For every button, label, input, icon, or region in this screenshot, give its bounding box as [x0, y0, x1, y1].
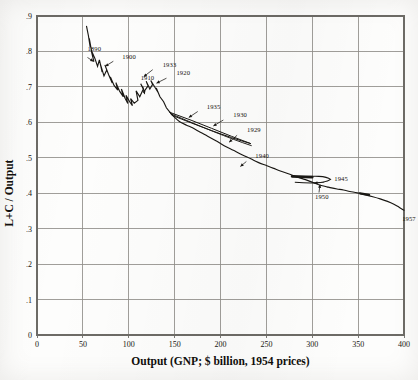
x-tick-label: 100	[123, 340, 135, 349]
annotation-label-1929: 1929	[247, 126, 261, 133]
annotation-label-1950: 1950	[315, 193, 329, 200]
annotation-label-1940: 1940	[255, 152, 269, 159]
annotation-label-1910: 1910	[141, 74, 155, 81]
x-tick-label: 350	[352, 340, 364, 349]
y-tick-label: .8	[26, 47, 32, 56]
y-tick-label: .7	[26, 83, 32, 92]
chart-figure: 050100150200250300350400 .1.2.3.4.5.6.7.…	[0, 0, 418, 380]
annotation-label-1945: 1945	[334, 175, 348, 182]
y-tick-label: .2	[26, 260, 32, 269]
y-tick-label: .9	[26, 12, 32, 21]
annotation-label-1930: 1930	[233, 111, 247, 118]
chart-canvas: 050100150200250300350400 .1.2.3.4.5.6.7.…	[0, 0, 418, 380]
x-tick-label: 150	[169, 340, 181, 349]
x-axis-title: Output (GNP; $ billion, 1954 prices)	[131, 355, 309, 368]
y-tick-label: .3	[26, 225, 32, 234]
x-tick-label: 300	[306, 340, 318, 349]
annotation-label-1890: 1890	[87, 45, 101, 52]
annotation-label-1920: 1920	[176, 69, 190, 76]
y-tick-label-zero: 0	[28, 331, 32, 340]
annotation-label-1957: 1957	[402, 215, 416, 222]
x-tick-label: 0	[35, 340, 39, 349]
y-axis-title: L+C / Output	[3, 159, 16, 226]
y-tick-label: .5	[26, 154, 32, 163]
annotation-label-1900: 1900	[122, 53, 136, 60]
x-tick-label: 200	[215, 340, 227, 349]
x-tick-label: 400	[398, 340, 410, 349]
y-tick-label: .6	[26, 118, 32, 127]
x-tick-label: 250	[260, 340, 272, 349]
annotation-label-1933: 1933	[163, 61, 177, 68]
ink-blot-1945	[292, 176, 312, 177]
x-tick-label: 50	[79, 340, 87, 349]
ink-blot-1953	[360, 193, 369, 194]
y-tick-label: .4	[26, 189, 32, 198]
chart-background	[0, 0, 418, 380]
y-tick-label: .1	[26, 296, 32, 305]
annotation-label-1935: 1935	[207, 103, 221, 110]
